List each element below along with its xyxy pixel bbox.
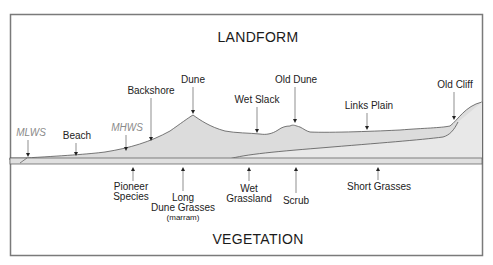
label-text: Old Cliff: [437, 79, 473, 90]
label-text: Dune: [181, 74, 205, 85]
label-text: Scrub: [283, 195, 310, 206]
label-text: Backshore: [127, 85, 175, 96]
label-text: Short Grasses: [347, 181, 411, 192]
label-text: MLWS: [16, 127, 46, 138]
label-text: Links Plain: [345, 100, 393, 111]
landform-title: LANDFORM: [218, 29, 299, 45]
label-text: MHWS: [111, 122, 143, 133]
label-text: Wet Slack: [235, 94, 281, 105]
label-text: Dune Grasses: [151, 202, 215, 213]
vegetation-title: VEGETATION: [212, 231, 303, 247]
ground-band: [10, 158, 482, 164]
label-text: Grassland: [226, 193, 272, 204]
label-text: Species: [113, 191, 149, 202]
label-text: Beach: [63, 130, 91, 141]
label-note: (marram): [167, 213, 200, 222]
label-text: Old Dune: [275, 74, 318, 85]
coastal-profile-diagram: LANDFORM VEGETATION MLWS Beach MHWS Back…: [0, 0, 493, 265]
